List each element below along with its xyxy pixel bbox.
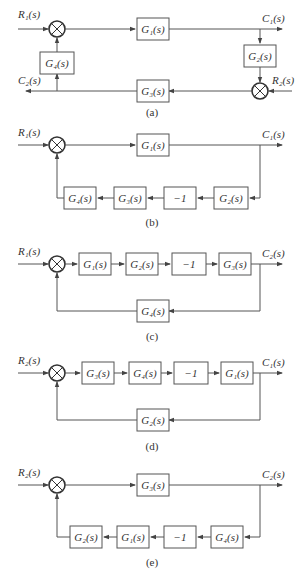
- forward-block-2-label: G₄(s): [133, 367, 157, 380]
- input-label-r1: R₁(s): [17, 8, 40, 21]
- output-label-c2: C₂(s): [18, 74, 41, 87]
- feedback-block-1-label: G₄(s): [68, 192, 92, 205]
- forward-block-3-label: −1: [185, 367, 198, 379]
- input-label-r2: R₂(s): [271, 74, 294, 87]
- feedback-block-3-label: −1: [174, 192, 187, 204]
- forward-block-1-label: G₃(s): [141, 479, 165, 492]
- summing-junction: [49, 477, 65, 493]
- input-label: R₁(s): [17, 245, 40, 258]
- forward-block-3-label: −1: [183, 258, 196, 270]
- feedback-block-2-label: G₁(s): [121, 531, 145, 544]
- feedback-line: [57, 382, 137, 420]
- block-g2-label: G₂(s): [248, 50, 272, 63]
- block-diagrams-figure: R₁(s) G₁(s) C₁(s) G₂(s) R₂(s) G₃(s) C₂(s…: [0, 0, 305, 583]
- input-label: R₁(s): [17, 126, 40, 139]
- output-label-c1: C₁(s): [262, 12, 285, 25]
- forward-block-1-label: G₁(s): [83, 258, 107, 271]
- forward-block-1-label: G₁(s): [141, 139, 165, 152]
- diagram-c: R₁(s) G₁(s) G₂(s) −1 G₃(s) C₂(s) G₄(s) (…: [17, 245, 285, 343]
- feedback-block-1-label: G₂(s): [141, 414, 165, 427]
- diagram-d: R₂(s) G₃(s) G₄(s) −1 G₁(s) C₁(s) G₂(s) (…: [17, 354, 285, 453]
- diagram-a: R₁(s) G₁(s) C₁(s) G₂(s) R₂(s) G₃(s) C₂(s…: [17, 8, 294, 119]
- diagram-e: R₂(s) G₃(s) C₂(s) G₄(s) −1 G₁(s) G₂(s) (…: [17, 466, 285, 569]
- summing-junction: [49, 256, 65, 272]
- output-label: C₁(s): [262, 128, 285, 141]
- caption-a: (a): [146, 106, 159, 119]
- feedback-block-3-label: −1: [174, 531, 187, 543]
- diagram-b: R₁(s) G₁(s) C₁(s) G₂(s) −1 G₃(s) G₄(s) (…: [17, 126, 285, 229]
- summing-junction-2: [252, 83, 268, 99]
- output-label: C₂(s): [262, 468, 285, 481]
- block-g3-label: G₃(s): [141, 85, 165, 98]
- summing-junction-1: [49, 21, 65, 37]
- feedback-line: [57, 494, 70, 537]
- summing-junction: [49, 365, 65, 381]
- feedback-line: [57, 154, 64, 198]
- summing-junction: [49, 137, 65, 153]
- forward-block-2-label: G₂(s): [130, 258, 154, 271]
- caption-c: (c): [146, 330, 159, 343]
- feedback-block-4-label: G₄(s): [215, 531, 239, 544]
- forward-block-4-label: G₁(s): [225, 367, 249, 380]
- input-label: R₂(s): [17, 466, 40, 479]
- caption-b: (b): [146, 216, 159, 229]
- feedback-line: [57, 273, 137, 311]
- forward-block-1-label: G₃(s): [86, 367, 110, 380]
- feedback-line: [245, 485, 260, 537]
- output-label: C₁(s): [262, 356, 285, 369]
- feedback-line: [250, 145, 260, 198]
- forward-block-4-label: G₃(s): [223, 258, 247, 271]
- caption-d: (d): [146, 440, 159, 453]
- output-label: C₂(s): [262, 247, 285, 260]
- block-g4-label: G₄(s): [45, 57, 69, 70]
- feedback-block-1-label: G₂(s): [74, 531, 98, 544]
- feedback-block-1-label: G₄(s): [141, 305, 165, 318]
- caption-e: (e): [146, 556, 159, 569]
- input-label: R₂(s): [17, 354, 40, 367]
- feedback-block-4-label: G₂(s): [219, 192, 243, 205]
- block-g1-label: G₁(s): [141, 23, 165, 36]
- feedback-block-2-label: G₃(s): [118, 192, 142, 205]
